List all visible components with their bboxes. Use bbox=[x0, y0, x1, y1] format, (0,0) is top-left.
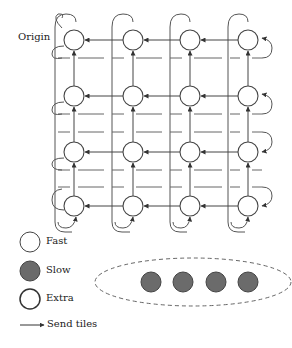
origin-label: Origin bbox=[18, 31, 50, 42]
slow-node-group bbox=[95, 258, 291, 306]
node-r3-c4 bbox=[238, 142, 258, 162]
slow-node-1 bbox=[141, 272, 161, 292]
mesh-diagram bbox=[0, 0, 292, 348]
legend-extra-icon bbox=[20, 289, 40, 309]
legend-send-tiles-label: Send tiles bbox=[47, 318, 97, 329]
legend-fast-icon bbox=[20, 232, 40, 252]
node-r3-c3 bbox=[180, 142, 200, 162]
node-r4-c3 bbox=[180, 196, 200, 216]
legend-extra-label: Extra bbox=[46, 292, 74, 303]
node-r4-c1 bbox=[64, 196, 84, 216]
node-r2-c3 bbox=[180, 86, 200, 106]
node-r2-c1 bbox=[64, 86, 84, 106]
node-r3-c2 bbox=[123, 142, 143, 162]
slow-node-4 bbox=[238, 272, 258, 292]
slow-node-2 bbox=[173, 272, 193, 292]
node-r3-c1 bbox=[64, 142, 84, 162]
node-r4-c2 bbox=[123, 196, 143, 216]
node-r2-c4 bbox=[238, 86, 258, 106]
legend-fast-label: Fast bbox=[46, 235, 67, 246]
slow-node-3 bbox=[206, 272, 226, 292]
node-r4-c4 bbox=[238, 196, 258, 216]
legend-slow-label: Slow bbox=[46, 264, 71, 275]
node-r1-c4 bbox=[238, 30, 258, 50]
legend-slow-icon bbox=[20, 261, 40, 281]
legend-shapes bbox=[20, 232, 44, 325]
node-r2-c2 bbox=[123, 86, 143, 106]
node-r1-c3 bbox=[180, 30, 200, 50]
node-r1-c1-origin bbox=[64, 30, 84, 50]
node-r1-c2 bbox=[123, 30, 143, 50]
